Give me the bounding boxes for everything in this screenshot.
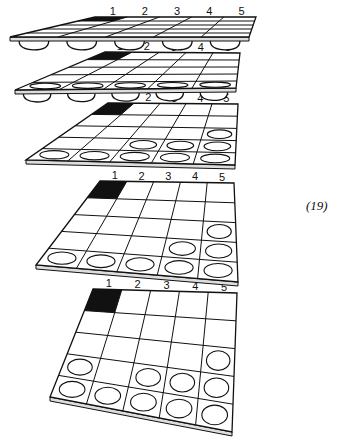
board-5: 12345	[50, 277, 237, 436]
column-label: 3	[165, 170, 171, 182]
stacked-boards-illustration: 1234512345123451234512345	[0, 0, 351, 445]
column-label: 4	[198, 41, 204, 53]
column-label: 1	[106, 277, 112, 289]
board-surface	[15, 52, 240, 90]
column-label: 2	[142, 5, 148, 17]
cup-underside	[112, 93, 139, 101]
column-label: 4	[206, 5, 212, 17]
column-label: 1	[112, 169, 118, 181]
column-label: 3	[163, 279, 169, 291]
figure-number: (19)	[306, 198, 328, 214]
column-label: 5	[219, 171, 225, 183]
column-label: 4	[192, 170, 198, 182]
cup-underside	[19, 41, 49, 50]
cup-underside	[210, 41, 240, 50]
board-1: 12345	[10, 5, 256, 50]
board-4: 12345	[36, 169, 238, 286]
column-label: 1	[110, 5, 116, 17]
cup-underside	[162, 41, 192, 50]
cup-underside	[68, 93, 95, 101]
board-3: 12345	[26, 91, 238, 169]
column-label: 5	[238, 5, 244, 17]
column-label: 3	[174, 5, 180, 17]
cup-underside	[156, 93, 183, 101]
cup-underside	[67, 41, 97, 50]
cup-underside	[23, 94, 50, 102]
board-surface	[26, 103, 238, 165]
figure-canvas: 1234512345123451234512345 (19)	[0, 0, 351, 445]
cup-underside	[200, 92, 227, 100]
column-label: 2	[135, 278, 141, 290]
column-label: 2	[138, 170, 144, 182]
